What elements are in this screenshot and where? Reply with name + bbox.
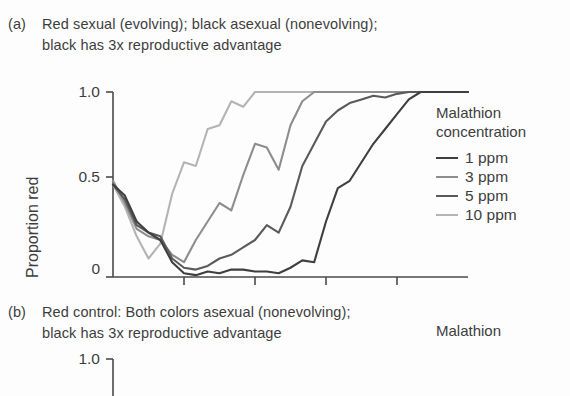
- panel-a-label: (a): [8, 14, 26, 35]
- legend-swatch-icon: [436, 214, 458, 216]
- chart-a-series-group: [113, 92, 468, 275]
- legend-swatch-icon: [436, 195, 458, 197]
- series-line-3-ppm: [113, 92, 468, 262]
- panel-b-legend-title: Malathion: [436, 322, 501, 341]
- legend-label: 10 ppm: [465, 206, 517, 224]
- legend-swatch-icon: [436, 157, 458, 159]
- panel-b-caption-line1: Red control: Both colors asexual (nonevo…: [42, 302, 548, 323]
- legend-panel-a: Malathion concentration 1 ppm3 ppm5 ppm1…: [436, 104, 526, 225]
- legend-row-1-ppm[interactable]: 1 ppm: [436, 149, 526, 168]
- legend-label: 5 ppm: [465, 187, 508, 205]
- panel-a-caption-line2: black has 3x reproductive advantage: [42, 35, 548, 56]
- legend-label: 3 ppm: [465, 168, 508, 186]
- series-line-10-ppm: [113, 92, 468, 259]
- panel-b: (b) Red control: Both colors asexual (no…: [0, 292, 570, 392]
- legend-panel-b: Malathion: [436, 322, 501, 341]
- panel-b-label: (b): [8, 302, 26, 323]
- legend-row-5-ppm[interactable]: 5 ppm: [436, 187, 526, 206]
- legend-row-3-ppm[interactable]: 3 ppm: [436, 168, 526, 187]
- legend-row-10-ppm[interactable]: 10 ppm: [436, 206, 526, 225]
- chart-b-svg: [0, 350, 570, 396]
- legend-items: 1 ppm3 ppm5 ppm10 ppm: [436, 149, 526, 225]
- legend-title-line2: concentration: [436, 123, 526, 142]
- legend-title-line1: Malathion: [436, 104, 526, 123]
- legend-swatch-icon: [436, 176, 458, 178]
- panel-a: (a) Red sexual (evolving); black asexual…: [0, 0, 570, 292]
- panel-a-caption: (a) Red sexual (evolving); black asexual…: [8, 14, 548, 56]
- legend-label: 1 ppm: [465, 149, 508, 167]
- chart-panel-b: 1.0: [0, 350, 570, 396]
- panel-a-caption-line1: Red sexual (evolving); black asexual (no…: [42, 14, 548, 35]
- series-line-5-ppm: [113, 92, 468, 270]
